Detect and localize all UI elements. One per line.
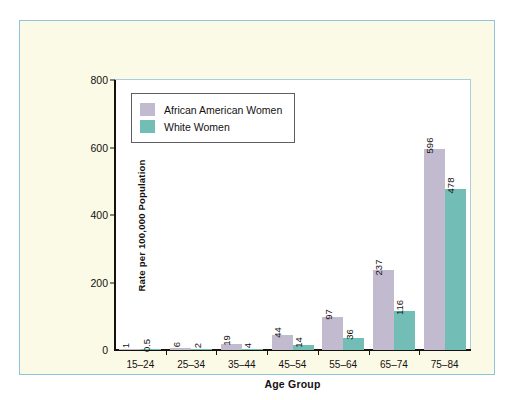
plot-area: Rate per 100,000 Population 020040060080… (114, 79, 471, 351)
x-tick-mark (267, 350, 268, 355)
bar-value-label: 116 (395, 300, 405, 315)
x-tick-label: 45–54 (279, 359, 307, 370)
y-tick-label: 0 (102, 344, 108, 356)
bar-value-label: 478 (446, 178, 456, 194)
y-tick-mark (110, 215, 115, 216)
x-tick-mark (369, 350, 370, 355)
bar-value-label: 19 (222, 335, 232, 346)
bar-value-label: 36 (344, 330, 354, 341)
x-tick-mark (166, 350, 167, 355)
y-tick-label: 400 (90, 209, 108, 221)
bar-group: 59647875–84 (424, 80, 466, 350)
bar-value-label: 2 (192, 343, 202, 348)
bar-value-label: 44 (273, 327, 283, 338)
x-tick-mark (419, 350, 420, 355)
x-tick-label: 25–34 (177, 359, 205, 370)
legend-swatch (140, 103, 155, 116)
chart-page: Rate per 100,000 Population 020040060080… (0, 0, 514, 400)
y-tick-mark (110, 147, 115, 148)
bar-value-label: 0.5 (141, 339, 151, 352)
bar-value-label: 97 (323, 309, 333, 320)
legend-label: African American Women (164, 104, 282, 116)
bar[interactable]: 478 (445, 189, 466, 350)
x-tick-mark (216, 350, 217, 355)
y-tick-mark (110, 282, 115, 283)
x-tick-label: 15–24 (126, 359, 154, 370)
bar[interactable]: 14 (293, 345, 314, 350)
bar-value-label: 1 (120, 343, 130, 348)
bar[interactable]: 2 (191, 349, 212, 351)
bar[interactable]: 596 (424, 149, 445, 350)
bar-value-label: 596 (425, 138, 435, 154)
bar[interactable]: 6 (170, 348, 191, 350)
bar[interactable]: 36 (343, 338, 364, 350)
bar[interactable]: 0.5 (140, 349, 161, 351)
bar[interactable]: 19 (221, 344, 242, 350)
bar-value-label: 4 (243, 343, 253, 348)
x-tick-label: 35–44 (228, 359, 256, 370)
chart-legend: African American WomenWhite Women (131, 93, 295, 143)
x-tick-label: 55–64 (329, 359, 357, 370)
bar[interactable]: 4 (242, 349, 263, 351)
chart-panel: Rate per 100,000 Population 020040060080… (19, 20, 495, 375)
legend-swatch (140, 120, 155, 133)
bar-value-label: 14 (294, 337, 304, 348)
y-tick-label: 200 (90, 277, 108, 289)
bar-value-label: 6 (171, 342, 181, 347)
x-tick-mark (318, 350, 319, 355)
bar[interactable]: 237 (373, 270, 394, 350)
bar-value-label: 237 (374, 259, 384, 275)
x-axis-title: Age Group (115, 378, 470, 390)
bar[interactable]: 116 (394, 311, 415, 350)
y-tick-label: 800 (90, 74, 108, 86)
bar[interactable]: 1 (119, 349, 140, 351)
x-tick-label: 65–74 (380, 359, 408, 370)
bar[interactable]: 97 (322, 317, 343, 350)
bar-group: 973655–64 (322, 80, 364, 350)
bar-group: 23711665–74 (373, 80, 415, 350)
y-tick-label: 600 (90, 142, 108, 154)
bar[interactable]: 44 (272, 335, 293, 350)
legend-label: White Women (164, 121, 230, 133)
y-tick-mark (110, 80, 115, 81)
legend-item[interactable]: White Women (140, 118, 282, 135)
x-tick-label: 75–84 (431, 359, 459, 370)
legend-item[interactable]: African American Women (140, 101, 282, 118)
